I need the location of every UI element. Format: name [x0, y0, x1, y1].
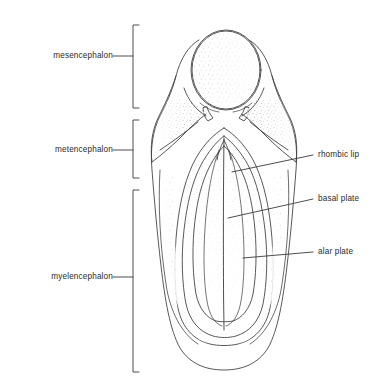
label-mesencephalon-text: mesencephalon: [53, 51, 113, 60]
label-rhombic-lip-text: rhombic lip: [318, 150, 359, 159]
label-myelencephalon: myelencephalon: [51, 273, 113, 281]
label-basal-plate: basal plate: [318, 195, 359, 203]
label-basal-plate-text: basal plate: [318, 194, 359, 203]
bracket-myelencephalon: [113, 190, 139, 372]
label-metencephalon-text: metencephalon: [55, 145, 113, 154]
bracket-metencephalon: [113, 120, 139, 178]
mesencephalon-vesicle: [191, 30, 261, 112]
bracket-group: [113, 25, 139, 372]
label-alar-plate: alar plate: [318, 248, 353, 256]
label-myelencephalon-text: myelencephalon: [51, 272, 113, 281]
label-mesencephalon: mesencephalon: [53, 52, 113, 60]
bracket-mesencephalon: [113, 25, 139, 108]
label-alar-plate-text: alar plate: [318, 247, 353, 256]
label-rhombic-lip: rhombic lip: [318, 151, 359, 159]
label-metencephalon: metencephalon: [55, 146, 113, 154]
